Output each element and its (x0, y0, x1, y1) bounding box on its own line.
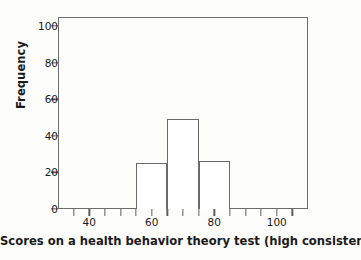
x-axis-title: Scores on a health behavior theory test … (0, 234, 361, 248)
y-axis-tick-label: 40 (18, 130, 58, 142)
y-axis-tick-label: 60 (18, 93, 58, 105)
y-axis-tick-label: 80 (18, 57, 58, 69)
histogram-bar (136, 163, 167, 209)
x-axis-tick-mark (214, 209, 215, 216)
histogram-figure: Frequency 020406080100 406080100 Scores … (0, 0, 361, 260)
x-axis-tick-mark (73, 209, 74, 216)
x-axis-tick-label: 60 (130, 216, 174, 228)
x-axis-tick-mark (89, 209, 90, 216)
x-axis-tick-mark (260, 209, 261, 216)
x-axis-tick-mark (292, 209, 293, 216)
x-axis-tick-mark (104, 209, 105, 216)
x-axis-tick-mark (276, 209, 277, 216)
x-axis-tick-mark (135, 209, 136, 216)
histogram-bar (199, 161, 230, 209)
y-axis-title: Frequency (14, 20, 28, 130)
x-axis-tick-mark (167, 209, 168, 216)
y-axis-tick-label: 100 (18, 20, 58, 32)
x-axis-tick-mark (245, 209, 246, 216)
x-axis-tick-label: 100 (255, 216, 299, 228)
x-axis-tick-mark (182, 209, 183, 216)
x-axis-tick-mark (151, 209, 152, 216)
x-axis-tick-label: 80 (192, 216, 236, 228)
x-axis-tick-label: 40 (67, 216, 111, 228)
x-axis-tick-mark (229, 209, 230, 216)
x-axis-tick-mark (120, 209, 121, 216)
histogram-bar (167, 119, 198, 209)
x-axis-tick-mark (198, 209, 199, 216)
y-axis-tick-label: 0 (18, 203, 58, 215)
y-axis-tick-label: 20 (18, 166, 58, 178)
